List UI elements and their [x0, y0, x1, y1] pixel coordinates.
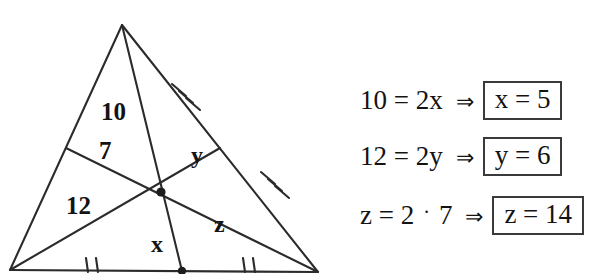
- equation-row-3: z = 2 · 7 ⇒ z = 14: [360, 196, 584, 235]
- triangle-diagram-svg: [0, 0, 330, 274]
- label-segment-z: z: [214, 212, 225, 236]
- implies-arrow-icon: ⇒: [456, 89, 474, 115]
- implies-arrow-icon: ⇒: [456, 145, 474, 171]
- equation-1-result: x = 5: [483, 81, 563, 120]
- label-segment-12: 12: [66, 193, 91, 218]
- multiplication-dot-icon: ·: [423, 201, 430, 224]
- equation-3-lhs-b: 7: [439, 200, 453, 231]
- triangle-median-figure: 10 7 12 x y z: [0, 0, 330, 274]
- centroid-point: [156, 187, 165, 196]
- label-segment-10: 10: [101, 99, 126, 124]
- tick-group-right-lower: [261, 172, 289, 198]
- equation-row-2: 12 = 2y ⇒ y = 6: [360, 137, 562, 176]
- label-segment-7: 7: [99, 138, 112, 163]
- equation-list: 10 = 2x ⇒ x = 5 12 = 2y ⇒ y = 6 z = 2 · …: [330, 0, 604, 274]
- screenshot-root: 10 7 12 x y z 10 = 2x ⇒ x = 5 12 = 2y ⇒ …: [0, 0, 604, 274]
- triangle-side-bottom: [10, 270, 318, 272]
- equation-1-lhs: 10 = 2x: [360, 85, 443, 116]
- label-segment-x: x: [151, 232, 163, 256]
- equation-2-lhs: 12 = 2y: [360, 141, 443, 172]
- label-segment-y: y: [191, 143, 203, 167]
- bottom-midpoint-point: [178, 267, 186, 274]
- equation-row-1: 10 = 2x ⇒ x = 5: [360, 81, 562, 120]
- equation-2-result: y = 6: [483, 137, 563, 176]
- implies-arrow-icon: ⇒: [465, 204, 483, 230]
- tick-group-bottom-right: [243, 258, 255, 272]
- equation-3-result: z = 14: [492, 196, 584, 235]
- equation-3-lhs-a: z = 2: [360, 200, 414, 231]
